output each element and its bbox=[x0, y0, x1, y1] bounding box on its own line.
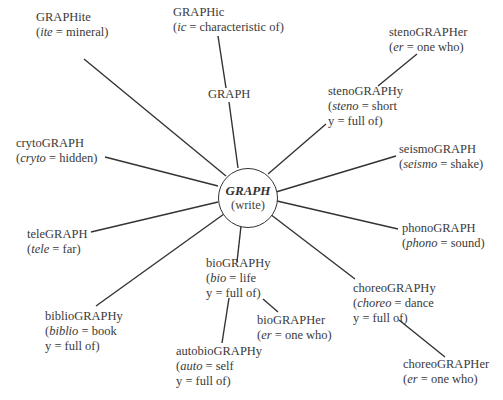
word: GRAPH bbox=[208, 87, 250, 102]
definition: (ic = characteristic of) bbox=[173, 20, 284, 35]
definition: (steno = short bbox=[328, 99, 403, 114]
word: GRAPHic bbox=[173, 5, 284, 20]
definition: (phono = sound) bbox=[402, 236, 485, 251]
node-stenography: stenoGRAPHy (steno = short y = full of) bbox=[328, 84, 403, 129]
word: stenoGRAPHy bbox=[328, 84, 403, 99]
line-stenography bbox=[268, 124, 326, 174]
definition-suffix: y = full of) bbox=[328, 114, 403, 129]
definition-suffix: y = full of) bbox=[45, 339, 123, 354]
definition-suffix: y = full of) bbox=[176, 374, 262, 389]
node-phonograph: phonoGRAPH (phono = sound) bbox=[402, 221, 485, 251]
node-choreography: choreoGRAPHy (choreo = dance y = full of… bbox=[353, 281, 436, 326]
line-seismograph bbox=[276, 156, 396, 192]
node-seismograph: seismoGRAPH (seismo = shake) bbox=[399, 142, 483, 172]
definition: (choreo = dance bbox=[353, 296, 436, 311]
word: crytoGRAPH bbox=[16, 136, 97, 151]
definition: (cryto = hidden) bbox=[16, 151, 97, 166]
definition-suffix: y = full of) bbox=[206, 286, 271, 301]
line-stenographer bbox=[378, 54, 417, 86]
node-graph: GRAPH bbox=[208, 87, 250, 102]
definition: (bio = life bbox=[206, 271, 271, 286]
definition: (er = one who) bbox=[257, 328, 332, 343]
line-graphite bbox=[84, 59, 226, 176]
line-bibliography bbox=[96, 214, 224, 306]
node-crytograph: crytoGRAPH (cryto = hidden) bbox=[16, 136, 97, 166]
word: choreoGRAPHy bbox=[353, 281, 436, 296]
word: bioGRAPHy bbox=[206, 256, 271, 271]
node-telegraph: teleGRAPH (tele = far) bbox=[27, 227, 87, 257]
definition: (er = one who) bbox=[389, 40, 467, 55]
node-autobiography: autobioGRAPHy (auto = self y = full of) bbox=[176, 344, 262, 389]
root-word: GRAPH bbox=[226, 183, 271, 198]
node-stenographer: stenoGRAPHer (er = one who) bbox=[389, 25, 467, 55]
node-biography: bioGRAPHy (bio = life y = full of) bbox=[206, 256, 271, 301]
word: teleGRAPH bbox=[27, 227, 87, 242]
root-meaning: (write) bbox=[231, 198, 265, 213]
definition: (tele = far) bbox=[27, 242, 87, 257]
word: autobioGRAPHy bbox=[176, 344, 262, 359]
definition-suffix: y = full of) bbox=[353, 311, 436, 326]
word: seismoGRAPH bbox=[399, 142, 483, 157]
word: GRAPHite bbox=[36, 10, 108, 25]
line-graphic bbox=[218, 36, 226, 88]
definition: (ite = mineral) bbox=[36, 25, 108, 40]
line-crytograph bbox=[105, 157, 218, 186]
definition: (seismo = shake) bbox=[399, 157, 483, 172]
word: biblioGRAPHy bbox=[45, 309, 123, 324]
line-autobiography bbox=[222, 298, 229, 343]
node-choreographer: choreoGRAPHer (er = one who) bbox=[403, 357, 489, 387]
node-graphic: GRAPHic (ic = characteristic of) bbox=[173, 5, 284, 35]
definition: (biblio = book bbox=[45, 324, 123, 339]
word: bioGRAPHer bbox=[257, 313, 332, 328]
word: choreoGRAPHer bbox=[403, 357, 489, 372]
line-phonograph bbox=[277, 201, 398, 229]
node-biographer: bioGRAPHer (er = one who) bbox=[257, 313, 332, 343]
definition: (auto = self bbox=[176, 359, 262, 374]
node-graphite: GRAPHite (ite = mineral) bbox=[36, 10, 108, 40]
line-telegraph bbox=[91, 202, 218, 232]
word: stenoGRAPHer bbox=[389, 25, 467, 40]
root-circle: GRAPH (write) bbox=[218, 168, 278, 228]
definition: (er = one who) bbox=[403, 372, 489, 387]
line-choreography bbox=[270, 214, 355, 279]
word: phonoGRAPH bbox=[402, 221, 485, 236]
node-bibliography: biblioGRAPHy (biblio = book y = full of) bbox=[45, 309, 123, 354]
line-graph bbox=[229, 102, 238, 168]
